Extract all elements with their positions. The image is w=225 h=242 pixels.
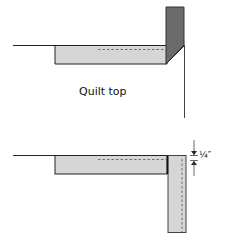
arrow-down-icon <box>191 151 197 155</box>
binding-strip-horizontal-2 <box>55 156 167 175</box>
quarter-inch-dimension <box>190 140 198 176</box>
binding-diagram <box>0 0 225 242</box>
bottom-panel <box>13 140 198 233</box>
binding-strip-horizontal <box>55 46 167 65</box>
quilt-top-label: Quilt top <box>79 85 127 98</box>
quarter-inch-label: ¼″ <box>199 150 211 160</box>
binding-strip-vertical <box>168 156 186 233</box>
top-panel <box>13 7 185 118</box>
